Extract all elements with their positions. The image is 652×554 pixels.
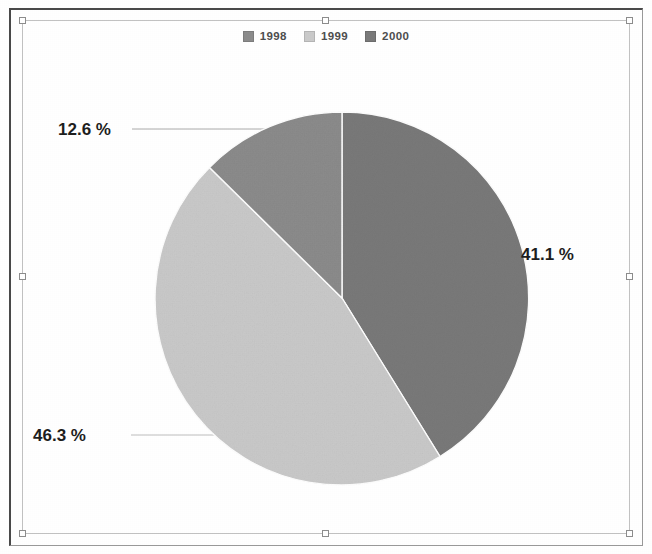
resize-handle-bottom-right[interactable]	[626, 530, 633, 537]
resize-handle-middle-right[interactable]	[626, 273, 633, 280]
resize-handle-top-center[interactable]	[322, 17, 329, 24]
chart-screenshot: 1998 1999 2000 12.6 % 46.3 % 41.1 %	[0, 0, 652, 554]
chart-object-selection-frame[interactable]	[22, 20, 630, 534]
resize-handle-bottom-center[interactable]	[322, 530, 329, 537]
resize-handle-middle-left[interactable]	[19, 273, 26, 280]
resize-handle-top-left[interactable]	[19, 17, 26, 24]
resize-handle-top-right[interactable]	[626, 17, 633, 24]
resize-handle-bottom-left[interactable]	[19, 530, 26, 537]
